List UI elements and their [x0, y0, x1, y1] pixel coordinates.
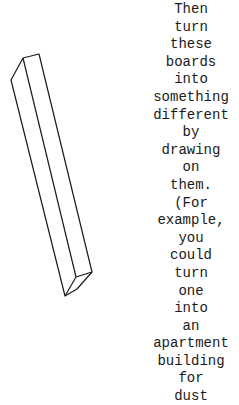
- text-line: turn: [146, 19, 236, 37]
- text-line: on: [146, 159, 236, 177]
- text-line: you: [146, 230, 236, 248]
- board-front-edge: [23, 58, 76, 277]
- text-line: dust: [146, 388, 236, 405]
- text-line: one: [146, 283, 236, 301]
- text-line: an: [146, 318, 236, 336]
- text-line: boards: [146, 54, 236, 72]
- text-line: into: [146, 300, 236, 318]
- text-line: drawing: [146, 142, 236, 160]
- text-line: different: [146, 107, 236, 125]
- text-line: by: [146, 124, 236, 142]
- text-line: into: [146, 71, 236, 89]
- text-line: example,: [146, 212, 236, 230]
- text-line: for: [146, 370, 236, 388]
- text-line: them.: [146, 177, 236, 195]
- text-line: (For: [146, 195, 236, 213]
- text-line: these: [146, 36, 236, 54]
- text-line: building: [146, 353, 236, 371]
- text-line: something: [146, 89, 236, 107]
- text-line: apartment: [146, 335, 236, 353]
- text-line: Then: [146, 1, 236, 19]
- text-line: could: [146, 247, 236, 265]
- instruction-text: Then turn these boards into something di…: [146, 1, 236, 405]
- text-line: turn: [146, 265, 236, 283]
